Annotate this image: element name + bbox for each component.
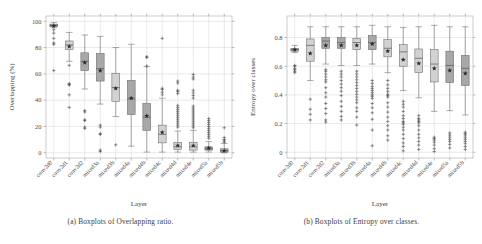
boxplot-mixed4a [368,25,376,147]
y-tick-label: 100 [32,18,42,25]
boxplot-mixed4b [143,55,151,152]
y-tick-label: 40 [35,96,41,103]
boxplot-mixed5b [461,27,469,151]
y-axis-title: Overlapping (%) [8,63,16,111]
boxplot-svg-b: 00.20.40.60.8Entropy over classesconv2d0… [241,0,482,216]
subfigure-a: 020406080100Overlapping (%)conv2d0conv2d… [0,0,241,244]
y-tick-label: 0 [38,149,41,156]
box-iqr [96,53,104,81]
boxplot-mixed4c [399,27,407,152]
figure-container: 020406080100Overlapping (%)conv2d0conv2d… [0,0,482,244]
caption-a: (a) Boxplots of Overlapping ratio. [0,216,241,227]
boxplot-mixed3b [353,27,361,127]
y-tick-label: 0.2 [275,120,283,127]
boxplot-mixed3a [337,27,345,122]
boxplot-mixed4a [127,44,135,146]
y-tick-label: 60 [35,70,41,77]
plot-frame [46,16,232,158]
boxplot-mixed5a [205,117,213,152]
x-axis-title: Layer [131,200,148,208]
x-tick-label: mixed5b [446,159,465,178]
subfigure-b: 00.20.40.60.8Entropy over classesconv2d0… [241,0,482,244]
plot-area-b: 00.20.40.60.8Entropy over classesconv2d0… [241,0,482,216]
plot-frame [287,16,473,158]
boxplot-mixed4b [384,27,392,142]
caption-b: (b) Boxplots of Entropy over classes. [241,216,482,227]
boxplot-conv2d2 [322,27,330,124]
y-tick-label: 0.8 [275,34,283,41]
y-tick-label: 0 [279,149,282,156]
x-tick-label: mixed5b [205,159,224,178]
boxplot-svg-a: 020406080100Overlapping (%)conv2d0conv2d… [0,0,241,216]
boxplot-mixed3a [96,36,104,153]
x-axis-title: Layer [372,200,389,208]
y-tick-label: 20 [35,123,41,130]
boxplot-mixed4d [174,79,182,152]
box-iqr [446,51,454,83]
box-iqr [306,39,314,61]
plot-area-a: 020406080100Overlapping (%)conv2d0conv2d… [0,0,241,216]
box-iqr [399,45,407,67]
y-tick-label: 0.6 [275,63,283,70]
box-iqr [461,55,469,85]
y-tick-label: 80 [35,44,41,51]
boxplot-mixed5a [446,27,454,150]
y-tick-label: 0.4 [275,91,284,98]
y-axis-title: Entropy over classes [249,58,257,116]
